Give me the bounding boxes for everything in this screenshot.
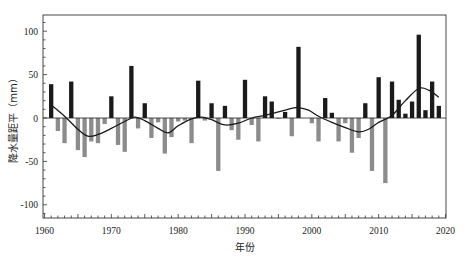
bar-1985	[209, 103, 213, 118]
bar-1980	[176, 118, 180, 121]
y-axis-title: 降水量距平（mm）	[7, 73, 19, 162]
bar-1974	[136, 118, 140, 128]
bar-2006	[350, 118, 354, 153]
precipitation-anomaly-chart: 1960197019801990200020102020 -100-500501…	[0, 0, 466, 266]
x-axis-title: 年份	[235, 241, 255, 253]
x-tick-label: 1970	[102, 226, 121, 236]
bar-1973	[129, 66, 133, 118]
y-tick-label: 100	[24, 27, 39, 37]
bar-1978	[163, 118, 167, 154]
bar-2010	[377, 77, 381, 118]
y-tick-label: -50	[25, 157, 38, 167]
bar-1964	[69, 82, 73, 118]
bar-2002	[323, 98, 327, 118]
bar-2003	[330, 113, 334, 118]
bar-2018	[430, 82, 434, 118]
bar-1996	[283, 112, 287, 118]
bar-1987	[223, 106, 227, 118]
bar-1986	[216, 118, 220, 171]
bar-1989	[236, 118, 240, 140]
bar-1979	[169, 118, 173, 137]
bar-2017	[423, 110, 427, 118]
bar-1994	[270, 102, 274, 118]
x-tick-label: 2020	[436, 226, 455, 236]
bar-2014	[403, 114, 407, 118]
bar-1970	[109, 96, 113, 118]
bar-1990	[243, 80, 247, 118]
bar-1992	[256, 118, 260, 141]
bar-1965	[76, 118, 80, 150]
bar-1972	[123, 118, 127, 152]
x-tick-label: 1980	[169, 226, 188, 236]
bar-1977	[156, 118, 160, 122]
x-tick-label: 2010	[369, 226, 388, 236]
anomaly-bars	[49, 35, 441, 183]
x-tick-label: 1990	[236, 226, 255, 236]
bar-2005	[343, 118, 347, 123]
bar-1975	[143, 103, 147, 118]
bar-2008	[363, 103, 367, 118]
bar-1997	[290, 118, 294, 136]
bar-2000	[310, 118, 314, 123]
bar-1962	[56, 118, 60, 131]
y-tick-label: 50	[29, 70, 39, 80]
bar-2012	[390, 82, 394, 118]
bar-1967	[89, 118, 93, 141]
bar-1971	[116, 118, 120, 145]
x-axis: 1960197019801990200020102020	[35, 214, 455, 236]
bar-2011	[383, 118, 387, 183]
bar-2019	[437, 106, 441, 118]
bar-1963	[62, 118, 66, 143]
bar-1966	[82, 118, 86, 157]
y-tick-label: 0	[33, 114, 38, 124]
x-tick-label: 1960	[35, 226, 54, 236]
bar-2015	[410, 102, 414, 118]
bar-1983	[196, 81, 200, 118]
bar-2016	[417, 35, 421, 118]
bar-1969	[103, 118, 107, 124]
bar-1961	[49, 84, 53, 118]
bar-1968	[96, 118, 100, 143]
y-tick-label: -100	[21, 200, 39, 210]
x-tick-label: 2000	[302, 226, 321, 236]
bar-1982	[189, 118, 193, 143]
bar-1976	[149, 118, 153, 138]
bar-2007	[356, 118, 360, 138]
bar-2004	[336, 118, 340, 141]
bar-2001	[316, 118, 320, 141]
